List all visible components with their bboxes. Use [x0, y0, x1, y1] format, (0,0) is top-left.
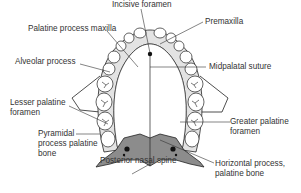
label-midpalatal-suture: Midpalatal suture	[209, 62, 271, 72]
label-pyramidal-process-line3: bone	[38, 149, 56, 159]
label-horizontal-process-line1: Horizontal process,	[215, 159, 285, 169]
label-greater-palatine-foramen-line1: Greater palatine	[230, 117, 289, 127]
label-premaxilla: Premaxilla	[205, 17, 243, 27]
label-posterior-nasal-spine: Posterior nasal spine	[100, 156, 176, 166]
greater-palatine-foramen-left	[124, 146, 129, 151]
label-incisive-foramen: Incisive foramen	[112, 0, 172, 10]
label-palatine-process-maxilla: Palatine process maxilla	[28, 24, 116, 34]
label-lesser-palatine-foramen-line1: Lesser palatine	[10, 98, 66, 108]
label-alveolar-process: Alveolar process	[15, 57, 76, 67]
greater-palatine-foramen-right	[170, 146, 175, 151]
label-lesser-palatine-foramen-line2: foramen	[10, 108, 40, 118]
label-pyramidal-process-line1: Pyramidal	[38, 129, 74, 139]
label-greater-palatine-foramen-line2: foramen	[230, 127, 260, 137]
label-pyramidal-process-line2: process palatine	[38, 139, 98, 149]
label-horizontal-process-line2: palatine bone	[215, 169, 264, 179]
